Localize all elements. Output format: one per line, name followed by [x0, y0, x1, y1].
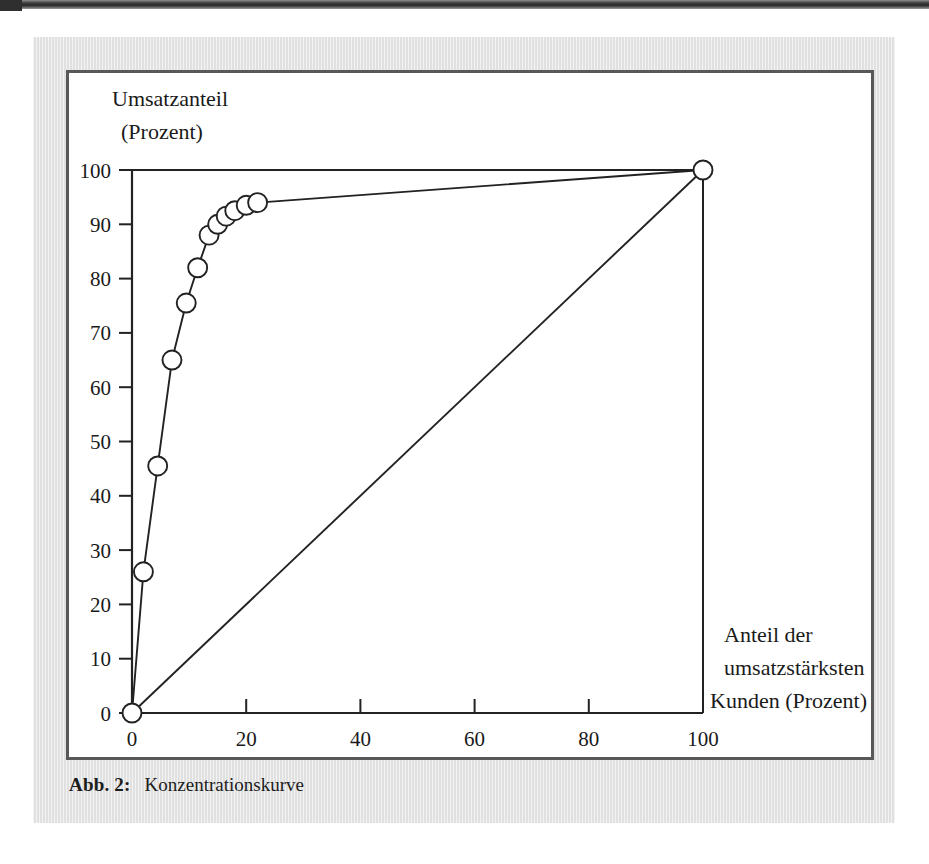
page-edge-nub: [0, 0, 22, 11]
x-tick-label: 60: [464, 727, 485, 751]
chart-box: 0102030405060708090100020406080100Umsatz…: [66, 70, 874, 760]
y-axis-title-line2: (Prozent): [121, 119, 203, 144]
figure-caption: Abb. 2:Konzentrationskurve: [69, 774, 304, 796]
y-tick-label: 50: [90, 430, 111, 454]
x-tick-label: 20: [236, 727, 257, 751]
y-tick-label: 80: [90, 267, 111, 291]
diagonal-reference-line: [132, 170, 703, 713]
concentration-curve-chart: 0102030405060708090100020406080100Umsatz…: [69, 73, 871, 757]
y-tick-label: 10: [90, 647, 111, 671]
data-point-marker: [248, 193, 267, 212]
figure-panel: 0102030405060708090100020406080100Umsatz…: [33, 37, 895, 823]
y-tick-label: 60: [90, 376, 111, 400]
y-tick-label: 40: [90, 484, 111, 508]
x-axis-title-line3: Kunden (Prozent): [710, 688, 867, 713]
data-point-marker: [694, 161, 713, 180]
x-tick-label: 40: [350, 727, 371, 751]
x-axis-title-line2: umsatzstärksten: [724, 655, 865, 680]
y-tick-label: 100: [80, 159, 112, 183]
y-tick-label: 0: [101, 702, 112, 726]
data-point-marker: [148, 456, 167, 475]
y-tick-label: 30: [90, 539, 111, 563]
data-point-marker: [177, 294, 196, 313]
caption-label: Abb. 2:: [69, 774, 131, 795]
x-tick-label: 80: [578, 727, 599, 751]
x-tick-label: 0: [127, 727, 138, 751]
caption-text: Konzentrationskurve: [145, 774, 304, 795]
x-axis-title-line1: Anteil der: [724, 622, 813, 647]
y-tick-label: 70: [90, 321, 111, 345]
data-point-marker: [123, 704, 142, 723]
page-edge-bar: [0, 0, 929, 9]
x-tick-label: 100: [687, 727, 719, 751]
data-point-marker: [162, 351, 181, 370]
y-tick-label: 90: [90, 213, 111, 237]
page-root: 0102030405060708090100020406080100Umsatz…: [0, 0, 929, 864]
y-tick-label: 20: [90, 593, 111, 617]
data-point-marker: [134, 562, 153, 581]
y-axis-title-line1: Umsatzanteil: [112, 86, 228, 111]
data-point-marker: [188, 258, 207, 277]
